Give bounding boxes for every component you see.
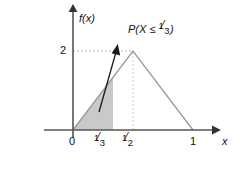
plot-canvas (0, 0, 240, 171)
x-tick-label-0: 0 (69, 136, 75, 147)
y-axis-arrowhead (69, 4, 78, 12)
fraction-denominator: 3 (100, 138, 105, 147)
probability-density-figure: f(x) x 2 0 1 ⁄ 3 1 ⁄ 2 1 P(X ≤ 1 ⁄ 3 ) (0, 0, 240, 171)
fraction-denominator: 2 (128, 138, 133, 147)
x-axis-label: x (222, 136, 228, 147)
fraction-denominator: 3 (164, 26, 169, 35)
annotation-suffix: ) (170, 23, 174, 35)
y-axis-label: f(x) (79, 13, 95, 24)
annotation-arrowhead (112, 44, 121, 56)
probability-annotation: P(X ≤ 1 ⁄ 3 ) (128, 24, 174, 35)
x-tick-label-one-third: 1 ⁄ 3 (94, 136, 106, 147)
fraction-one-third-annotation: 1 ⁄ 3 (159, 24, 171, 35)
y-tick-label-2: 2 (60, 45, 66, 56)
x-tick-label-1: 1 (190, 136, 196, 147)
annotation-prefix: P(X ≤ (128, 23, 159, 35)
x-axis-arrowhead (212, 126, 221, 135)
fraction-one-third: 1 ⁄ 3 (94, 136, 106, 147)
x-tick-label-one-half: 1 ⁄ 2 (122, 136, 134, 147)
fraction-one-half: 1 ⁄ 2 (122, 136, 134, 147)
